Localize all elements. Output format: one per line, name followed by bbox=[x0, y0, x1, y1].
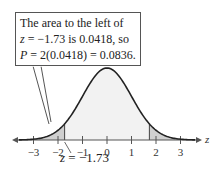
svg-text:2: 2 bbox=[153, 146, 159, 158]
svg-text:3: 3 bbox=[178, 146, 184, 158]
callout-box: The area to the left of z = −1.73 is 0.0… bbox=[15, 12, 141, 66]
svg-text:1: 1 bbox=[129, 146, 135, 158]
callout-line-3: P = 2(0.0418) = 0.0836. bbox=[20, 47, 140, 63]
svg-text:−3: −3 bbox=[28, 146, 40, 158]
z-marker-label: z = −1.73 bbox=[60, 150, 109, 166]
svg-text:z: z bbox=[204, 133, 210, 145]
callout-line-1: The area to the left of bbox=[20, 15, 140, 31]
callout-line-2: z = −1.73 is 0.0418, so bbox=[20, 31, 140, 47]
chart-figure: −3−2−10123z The area to the left of z = … bbox=[0, 0, 217, 174]
